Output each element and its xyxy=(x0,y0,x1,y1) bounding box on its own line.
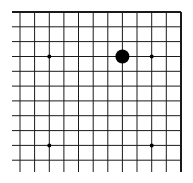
star-point-icon xyxy=(150,143,154,147)
star-point-icon xyxy=(150,55,154,59)
stones[interactable] xyxy=(115,50,129,64)
grid-lines xyxy=(12,12,181,172)
go-board[interactable] xyxy=(0,0,193,183)
black-stone[interactable] xyxy=(115,50,129,64)
star-point-icon xyxy=(47,55,51,59)
star-point-icon xyxy=(47,143,51,147)
